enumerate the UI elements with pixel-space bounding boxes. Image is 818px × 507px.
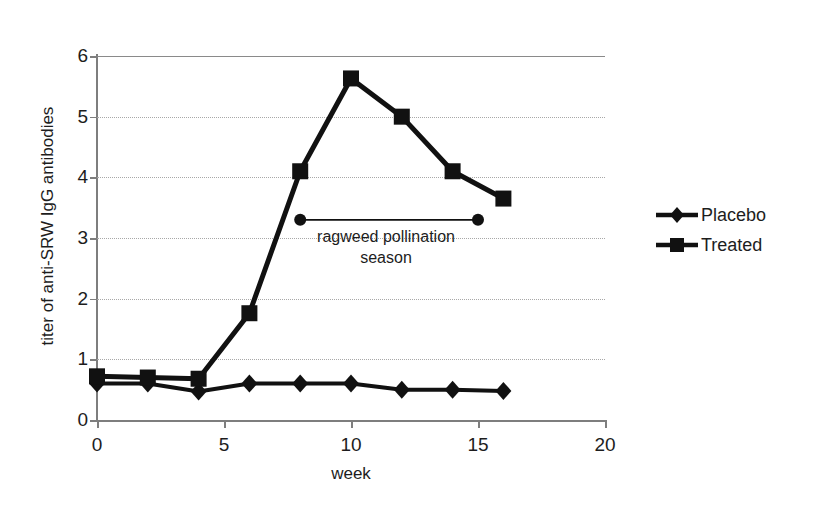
chart-legend: Placebo Treated bbox=[655, 200, 805, 260]
y-tick-label: 0 bbox=[77, 409, 88, 431]
legend-label-placebo: Placebo bbox=[701, 205, 766, 226]
y-tick-mark bbox=[90, 420, 97, 422]
x-tick-label: 0 bbox=[92, 434, 103, 456]
legend-item-treated[interactable]: Treated bbox=[655, 230, 805, 260]
season-bar-endpoint-start bbox=[294, 214, 306, 226]
y-tick-label: 2 bbox=[77, 288, 88, 310]
x-axis-title: week bbox=[97, 464, 605, 484]
y-tick-label: 6 bbox=[77, 45, 88, 67]
y-tick-mark bbox=[90, 56, 97, 58]
y-tick-mark bbox=[90, 299, 97, 301]
x-tick-mark bbox=[224, 420, 226, 428]
y-tick-label: 1 bbox=[77, 348, 88, 370]
y-tick-mark bbox=[90, 238, 97, 240]
x-tick-mark bbox=[605, 420, 607, 428]
x-tick-label: 5 bbox=[219, 434, 230, 456]
x-tick-mark bbox=[351, 420, 353, 428]
ragweed-season-label-line1: ragweed pollination bbox=[256, 226, 516, 247]
x-tick-mark bbox=[97, 420, 99, 428]
x-tick-mark bbox=[478, 420, 480, 428]
season-bar-endpoint-end bbox=[472, 214, 484, 226]
ragweed-season-label-line2: season bbox=[256, 247, 516, 268]
legend-marker-diamond-icon bbox=[655, 204, 699, 226]
y-tick-label: 4 bbox=[77, 166, 88, 188]
y-tick-mark bbox=[90, 359, 97, 361]
x-tick-label: 15 bbox=[467, 434, 488, 456]
x-tick-label: 10 bbox=[340, 434, 361, 456]
legend-label-treated: Treated bbox=[701, 235, 762, 256]
y-axis-title: titer of anti-SRW IgG antibodies bbox=[38, 61, 58, 391]
y-tick-mark bbox=[90, 117, 97, 119]
legend-item-placebo[interactable]: Placebo bbox=[655, 200, 805, 230]
ragweed-season-label: ragweed pollination season bbox=[256, 226, 516, 268]
x-tick-label: 20 bbox=[594, 434, 615, 456]
y-tick-label: 5 bbox=[77, 106, 88, 128]
legend-marker-square-icon bbox=[655, 234, 699, 256]
chart-figure: titer of anti-SRW IgG antibodies 6 5 4 3 bbox=[0, 0, 818, 507]
y-tick-mark bbox=[90, 177, 97, 179]
y-tick-label: 3 bbox=[77, 227, 88, 249]
